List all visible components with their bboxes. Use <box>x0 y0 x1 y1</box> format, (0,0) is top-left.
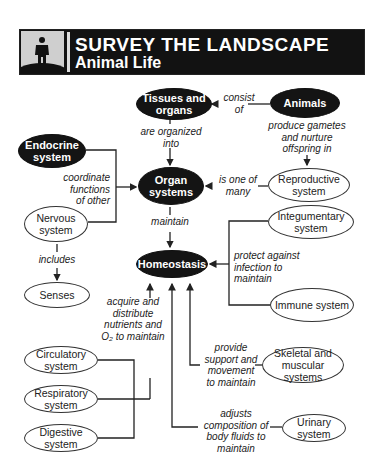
link-protect-against-infection: protect against infection to maintain <box>234 250 324 285</box>
node-reproductive-system: Reproductive system <box>268 168 350 202</box>
link-adjusts-composition: adjusts composition of body fluids to ma… <box>196 408 276 454</box>
node-urinary-system: Urinary system <box>282 414 346 442</box>
link-consist-of: consist of <box>210 92 268 115</box>
node-respiratory-system: Respiratory system <box>24 385 98 413</box>
node-nervous-system: Nervous system <box>24 206 88 242</box>
node-immune-system: Immune system <box>270 288 354 322</box>
node-digestive-system: Digestive system <box>24 424 98 452</box>
node-circulatory-system: Circulatory system <box>24 346 98 374</box>
link-includes: includes <box>30 254 84 266</box>
link-acquire-nutrients: acquire and distribute nutrients and O₂ … <box>98 296 168 342</box>
node-skeletal-muscular-systems: Skeletal and muscular systems <box>262 347 344 383</box>
link-provide-support: provide support and movement to maintain <box>202 342 260 388</box>
node-integumentary-system: Integumentary system <box>268 205 354 239</box>
node-homeostasis: Homeostasis <box>136 250 208 278</box>
link-coordinate-functions: coordinate functions of other <box>46 172 110 207</box>
node-animals: Animals <box>270 88 340 118</box>
node-organ-systems: Organ systems <box>138 167 204 205</box>
link-are-organized-into: are organized into <box>128 126 214 149</box>
node-senses: Senses <box>24 282 90 308</box>
link-is-one-of-many: is one of many <box>212 174 264 197</box>
link-maintain: maintain <box>140 216 200 228</box>
node-tissues-and-organs: Tissues and organs <box>136 88 212 120</box>
link-produce-gametes: produce gametes and nurture offspring in <box>258 120 356 155</box>
node-endocrine-system: Endocrine system <box>18 134 86 168</box>
